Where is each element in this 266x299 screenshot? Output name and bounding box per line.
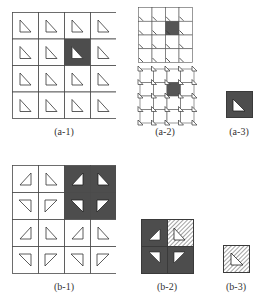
panel-b1: [12, 165, 116, 274]
grid-a2-bottom: [137, 66, 197, 126]
caption-b2: (b-2): [142, 281, 192, 292]
panel-a2-top: [138, 7, 193, 63]
panel-a2-bottom: [137, 66, 197, 126]
panel-a3: [226, 91, 253, 118]
panel-b2: [141, 219, 194, 274]
caption-b1: (b-1): [39, 281, 89, 292]
grid-b1: [12, 165, 116, 274]
caption-a2: (a-2): [140, 126, 190, 137]
grid-a1: [12, 12, 116, 119]
grid-a2-top: [138, 7, 193, 63]
caption-a3: (a-3): [214, 126, 264, 137]
cell-b3: [223, 245, 250, 273]
panel-a1: [12, 12, 116, 119]
panel-b3: [223, 245, 250, 273]
cell-a3: [226, 91, 253, 118]
caption-a1: (a-1): [39, 126, 89, 137]
caption-b3: (b-3): [211, 281, 261, 292]
grid-b2: [141, 219, 194, 274]
